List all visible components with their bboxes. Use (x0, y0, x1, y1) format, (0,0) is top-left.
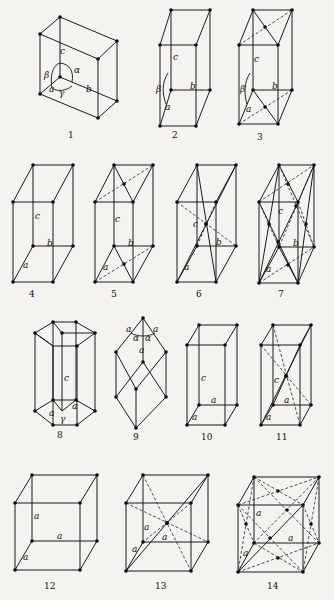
label-a: a (184, 262, 189, 272)
label-c: c (193, 219, 198, 229)
label-c: c (254, 54, 259, 64)
lattice-14-face-centered-cubic: a a a 14 (236, 475, 321, 591)
lattice-5-base-centered-orthorhombic: c b a 5 (93, 163, 155, 299)
label-beta: β (43, 70, 49, 80)
label-a3: a (23, 552, 28, 562)
label-b: b (216, 237, 222, 247)
label-alpha2: α (145, 333, 151, 343)
lattice-2-simple-monoclinic: c b a β 2 (155, 8, 212, 140)
label-a2: a (288, 533, 293, 543)
lattice-12-simple-cubic: a a a 12 (13, 473, 99, 591)
label-c: c (64, 373, 69, 383)
label-a: a (49, 84, 54, 94)
label-a: a (103, 262, 108, 272)
label-a3: a (243, 548, 248, 558)
label-a3: a (139, 345, 144, 355)
label-a1: a (34, 511, 39, 521)
lattice-number: 7 (278, 289, 284, 299)
label-gamma: γ (59, 88, 65, 98)
lattice-9-rhombohedral: a a a α α 9 (114, 316, 168, 442)
label-gamma: γ (60, 414, 66, 424)
lattice-8-hexagonal: c a a γ 8 (33, 320, 97, 440)
label-a: a (23, 260, 28, 270)
label-beta: β (239, 84, 245, 94)
lattice-number: 14 (267, 581, 279, 591)
label-a2: a (72, 401, 77, 411)
label-a1: a (256, 508, 261, 518)
lattice-number: 4 (29, 289, 35, 299)
bravais-lattices-figure: c b a α β γ 1 c b a β 2 (0, 0, 334, 600)
lattice-number: 9 (133, 432, 139, 442)
label-a: a (266, 264, 271, 274)
label-a: a (246, 104, 251, 114)
lattice-number: 6 (196, 289, 202, 299)
label-b: b (190, 81, 196, 91)
label-c: c (201, 373, 206, 383)
label-beta: β (155, 84, 161, 94)
lattice-1-triclinic: c b a α β γ 1 (38, 15, 119, 140)
lattice-number: 1 (68, 130, 74, 140)
label-a1: a (49, 408, 54, 418)
label-alpha1: α (133, 333, 139, 343)
lattice-11-body-centered-tetragonal: c a a 11 (259, 323, 313, 442)
lattice-number: 10 (201, 432, 213, 442)
lattice-number: 8 (57, 430, 63, 440)
label-c: c (274, 375, 279, 385)
lattice-10-simple-tetragonal: c a a 10 (185, 323, 239, 442)
lattice-number: 3 (257, 132, 263, 142)
label-a1: a (284, 395, 289, 405)
label-a: a (165, 102, 170, 112)
label-a1: a (144, 522, 149, 532)
lattice-3-base-centered-monoclinic: c b a β 3 (237, 8, 294, 142)
label-c: c (60, 46, 65, 56)
label-a2: a (266, 412, 271, 422)
lattice-number: 5 (111, 289, 117, 299)
lattice-number: 12 (44, 581, 55, 591)
label-c: c (115, 214, 120, 224)
label-c: c (173, 52, 178, 62)
label-a2: a (162, 532, 167, 542)
label-a1: a (211, 395, 216, 405)
lattice-7-face-centered-orthorhombic: c b a 7 (257, 163, 316, 299)
lattice-4-simple-orthorhombic: c b a 4 (11, 163, 75, 299)
label-b: b (272, 81, 278, 91)
lattice-number: 11 (276, 432, 287, 442)
label-a2: a (192, 412, 197, 422)
label-c: c (35, 211, 40, 221)
label-b: b (293, 238, 299, 248)
label-b: b (86, 84, 92, 94)
label-c: c (278, 206, 283, 216)
lattice-number: 13 (155, 581, 167, 591)
lattice-13-body-centered-cubic: a a a 13 (124, 473, 210, 591)
lattice-6-body-centered-orthorhombic: c b a 6 (175, 163, 238, 299)
lattice-number: 2 (172, 130, 178, 140)
label-a3: a (132, 544, 137, 554)
label-a2: a (153, 324, 158, 334)
label-b: b (128, 238, 134, 248)
label-a2: a (57, 531, 62, 541)
label-alpha: α (74, 65, 80, 75)
label-a1: a (126, 324, 131, 334)
label-b: b (47, 238, 53, 248)
